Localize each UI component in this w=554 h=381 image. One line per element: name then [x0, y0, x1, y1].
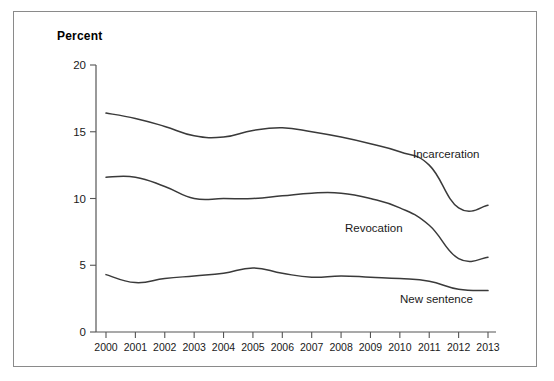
series-line-new-sentence: [106, 268, 488, 291]
data-series-lines: [106, 113, 488, 291]
x-tick-label: 2012: [447, 341, 471, 353]
chart-figure: Percent 05101520 20002001200220032004200…: [0, 0, 554, 381]
x-tick-label: 2005: [241, 341, 265, 353]
x-tick-label: 2007: [300, 341, 324, 353]
series-label-revocation: Revocation: [345, 222, 403, 234]
series-line-incarceration: [106, 113, 488, 211]
y-tick-label: 10: [73, 193, 86, 205]
x-tick-label: 2004: [212, 341, 236, 353]
x-tick-label: 2009: [359, 341, 383, 353]
x-tick-label: 2002: [153, 341, 177, 353]
series-line-revocation: [106, 176, 488, 261]
y-tick-label: 5: [80, 259, 86, 271]
y-tick-labels: 05101520: [73, 59, 86, 338]
x-tick-marks: [106, 332, 488, 338]
y-tick-label: 20: [73, 59, 86, 71]
y-tick-label: 0: [80, 326, 86, 338]
data-series-labels: IncarcerationRevocationNew sentence: [345, 148, 479, 305]
y-tick-marks: [90, 65, 96, 332]
x-tick-label: 2013: [476, 341, 500, 353]
x-tick-label: 2006: [271, 341, 295, 353]
series-label-new-sentence: New sentence: [400, 293, 473, 305]
x-tick-label: 2010: [388, 341, 412, 353]
x-tick-label: 2008: [329, 341, 353, 353]
x-tick-label: 2011: [418, 341, 441, 353]
line-chart-plot: 05101520 2000200120022003200420052006200…: [0, 0, 554, 381]
y-tick-label: 15: [73, 126, 86, 138]
x-tick-label: 2001: [124, 341, 148, 353]
x-tick-labels: 2000200120022003200420052006200720082009…: [94, 341, 500, 353]
x-tick-label: 2003: [182, 341, 206, 353]
x-tick-label: 2000: [94, 341, 118, 353]
series-label-incarceration: Incarceration: [413, 148, 479, 160]
